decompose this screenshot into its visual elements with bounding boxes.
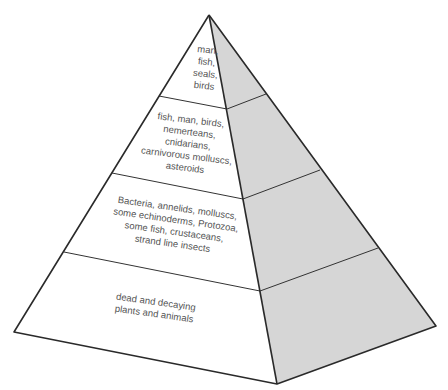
level-top-label: man, fish, seals, birds [176, 41, 237, 95]
